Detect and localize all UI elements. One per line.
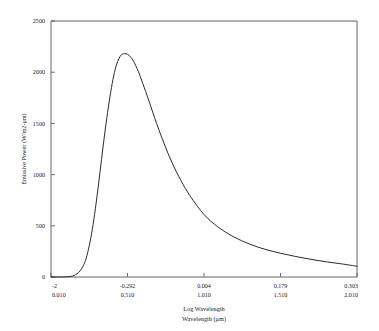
plot-area-background [51, 21, 357, 277]
x-tick-label-log: 0.179 [274, 283, 288, 289]
chart-figure: 05001000150020002500 -20.010-0.2920.5100… [0, 0, 379, 331]
x-axis-title-log: Log Wavelength [183, 305, 225, 312]
y-tick-label: 2000 [33, 69, 45, 75]
x-tick-label-wavelength: 2.010 [344, 292, 358, 298]
y-axis-title: Emissive Power (W/m2-μm) [20, 113, 28, 184]
x-tick-label-wavelength: 1.010 [197, 292, 211, 298]
y-tick-label: 500 [36, 223, 45, 229]
y-tick-label: 0 [42, 274, 45, 280]
y-tick-label: 1000 [33, 172, 45, 178]
x-tick-label-log: 0.303 [344, 283, 358, 289]
x-tick-label-log: -2 [52, 283, 57, 289]
x-tick-label-wavelength: 0.010 [52, 292, 66, 298]
x-tick-label-log: -0.292 [120, 283, 136, 289]
y-tick-label: 1500 [33, 121, 45, 127]
x-tick-label-wavelength: 1.510 [274, 292, 288, 298]
y-tick-label: 2500 [33, 18, 45, 24]
emissive-power-line-chart: 05001000150020002500 -20.010-0.2920.5100… [0, 0, 379, 331]
x-tick-label-wavelength: 0.510 [121, 292, 135, 298]
x-axis-title-wavelength: Wavelength (μm) [182, 315, 226, 323]
x-tick-label-log: 0.004 [197, 283, 211, 289]
